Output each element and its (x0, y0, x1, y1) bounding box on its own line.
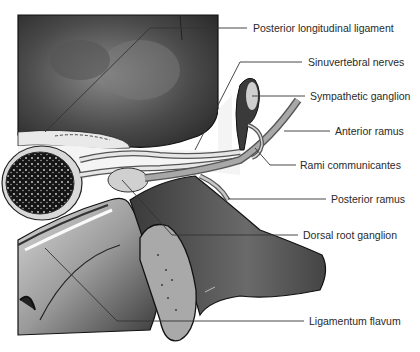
label-anterior-ramus: Anterior ramus (335, 125, 404, 137)
spinal-cord (2, 146, 82, 220)
label-sympathetic-ganglion: Sympathetic ganglion (310, 90, 410, 102)
label-posterior-longitudinal-ligament: Posterior longitudinal ligament (253, 22, 394, 34)
vertebral-body (18, 15, 218, 147)
anatomy-illustration (0, 0, 420, 352)
label-sinuvertebral-nerves: Sinuvertebral nerves (308, 56, 404, 68)
anatomy-figure: Posterior longitudinal ligament Sinuvert… (0, 0, 420, 352)
label-dorsal-root-ganglion: Dorsal root ganglion (303, 229, 397, 241)
label-posterior-ramus: Posterior ramus (331, 193, 405, 205)
label-rami-communicantes: Rami communicantes (300, 159, 401, 171)
label-ligamentum-flavum: Ligamentum flavum (309, 315, 401, 327)
dorsal-root-ganglion-shape (108, 168, 148, 192)
